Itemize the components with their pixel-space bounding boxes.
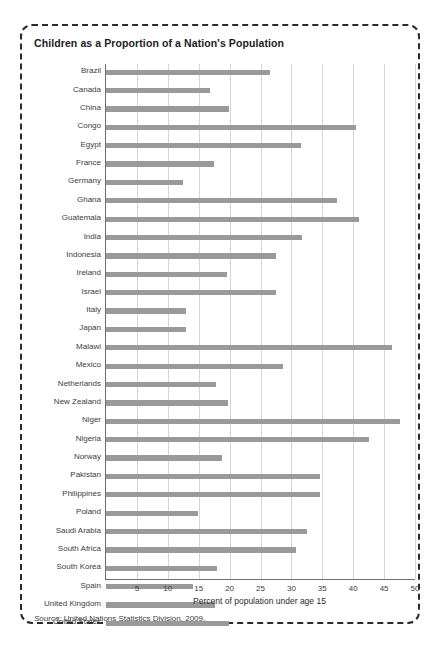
category-label: France: [76, 157, 101, 168]
category-label: Nigeria: [76, 433, 101, 444]
category-label: Spain: [81, 580, 101, 591]
chart-bar-row: Canada: [106, 82, 415, 100]
chart-bar-row: France: [106, 156, 415, 174]
chart-bar: [106, 492, 320, 497]
chart-bar-row: Japan: [106, 321, 415, 339]
chart-bar: [106, 217, 359, 222]
chart-bar: [106, 419, 400, 424]
chart-bar: [106, 566, 217, 571]
x-tick-label: 40: [349, 584, 358, 593]
chart-bar-row: Niger: [106, 413, 415, 431]
chart-bar: [106, 143, 301, 148]
category-label: New Zealand: [54, 396, 101, 407]
chart-bar: [106, 198, 337, 203]
category-label: Germany: [68, 175, 101, 186]
category-label: United Kingdom: [44, 598, 101, 609]
chart-bar-row: Germany: [106, 174, 415, 192]
chart-bar-row: Malawi: [106, 340, 415, 358]
category-label: Indonesia: [66, 249, 101, 260]
chart-bar: [106, 437, 369, 442]
category-label: Ghana: [77, 194, 101, 205]
category-label: Poland: [76, 506, 101, 517]
category-label: Egypt: [81, 139, 101, 150]
category-label: Saudi Arabia: [56, 525, 101, 536]
chart-plot-area: BrazilCanadaChinaCongoEgyptFranceGermany…: [105, 64, 415, 580]
category-label: Brazil: [81, 65, 101, 76]
category-label: Niger: [82, 414, 101, 425]
category-label: Israel: [81, 286, 101, 297]
chart-bar-row: Pakistan: [106, 468, 415, 486]
chart-bar-row: Guatemala: [106, 211, 415, 229]
category-label: Norway: [74, 451, 101, 462]
category-label: South Korea: [57, 561, 101, 572]
chart-bar: [106, 529, 307, 534]
chart-bar-row: South Africa: [106, 542, 415, 560]
chart-bar: [106, 474, 320, 479]
category-label: Japan: [79, 322, 101, 333]
x-tick-label: 10: [163, 584, 172, 593]
category-label: Pakistan: [70, 469, 101, 480]
x-tick-label: 45: [380, 584, 389, 593]
gridline: [415, 64, 416, 579]
chart-bar: [106, 88, 210, 93]
chart-bar-row: China: [106, 101, 415, 119]
category-label: Guatemala: [62, 212, 101, 223]
page-title: Children as a Proportion of a Nation's P…: [34, 37, 284, 49]
figure-card: Children as a Proportion of a Nation's P…: [20, 24, 420, 624]
chart-bar: [106, 70, 270, 75]
chart-bar: [106, 400, 228, 405]
chart-x-axis-label: Percent of population under age 15: [105, 596, 414, 606]
category-label: South Africa: [58, 543, 101, 554]
x-tick-label: 20: [225, 584, 234, 593]
chart-bar: [106, 125, 356, 130]
chart-bar: [106, 382, 216, 387]
chart-bars: BrazilCanadaChinaCongoEgyptFranceGermany…: [106, 64, 415, 579]
chart-bar: [106, 161, 214, 166]
chart-bar: [106, 180, 183, 185]
category-label: India: [84, 231, 101, 242]
chart-bar-row: Egypt: [106, 138, 415, 156]
chart-bar-row: Israel: [106, 285, 415, 303]
x-tick-label: 15: [194, 584, 203, 593]
category-label: Philippines: [62, 488, 101, 499]
chart-bar-row: Congo: [106, 119, 415, 137]
category-label: Mexico: [76, 359, 101, 370]
x-tick-label: 5: [135, 584, 139, 593]
category-label: Ireland: [77, 267, 101, 278]
chart-bar-row: Nigeria: [106, 432, 415, 450]
chart-bar-row: Italy: [106, 303, 415, 321]
chart-bar-row: Ghana: [106, 193, 415, 211]
chart-bar-row: South Korea: [106, 560, 415, 578]
chart-bar-row: New Zealand: [106, 395, 415, 413]
chart-bar: [106, 106, 229, 111]
category-label: Netherlands: [58, 378, 101, 389]
category-label: Congo: [77, 120, 101, 131]
chart-bar: [106, 290, 276, 295]
category-label: Italy: [86, 304, 101, 315]
chart-bar: [106, 272, 227, 277]
source-label: Source:: [34, 614, 62, 623]
x-tick-label: 30: [287, 584, 296, 593]
chart-bar: [106, 364, 283, 369]
chart-bar-row: Brazil: [106, 64, 415, 82]
chart-bar-row: Saudi Arabia: [106, 523, 415, 541]
x-tick-label: 35: [318, 584, 327, 593]
chart-bar-row: Norway: [106, 450, 415, 468]
chart-bar-row: Netherlands: [106, 376, 415, 394]
chart-bar-row: Mexico: [106, 358, 415, 376]
category-label: Canada: [73, 84, 101, 95]
chart-bar-row: Indonesia: [106, 248, 415, 266]
chart-bar: [106, 455, 222, 460]
x-tick-label: 25: [256, 584, 265, 593]
chart-bar: [106, 584, 193, 589]
chart-bar: [106, 253, 276, 258]
chart-bar-row: Ireland: [106, 266, 415, 284]
chart-bar: [106, 235, 302, 240]
chart-bar: [106, 345, 392, 350]
chart-bar: [106, 308, 186, 313]
chart-bar-row: Philippines: [106, 487, 415, 505]
x-tick-label: 50: [411, 584, 420, 593]
chart-bar-row: India: [106, 229, 415, 247]
chart-bar: [106, 327, 186, 332]
category-label: Malawi: [76, 341, 101, 352]
